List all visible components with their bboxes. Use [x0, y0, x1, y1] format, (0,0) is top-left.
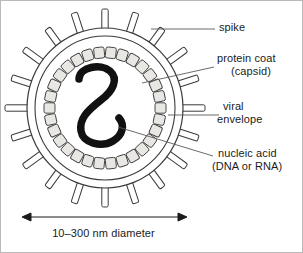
capsid-subunit	[153, 113, 166, 125]
scale-arrow	[22, 213, 187, 221]
capsid-subunit	[153, 90, 166, 102]
capsid-subunit	[44, 103, 55, 113]
label-viral-envelope: viral envelope	[223, 100, 262, 126]
capsid-subunit	[93, 157, 104, 169]
envelope-inner-edge	[35, 36, 175, 180]
label-capsid-text: (capsid)	[217, 65, 276, 78]
capsid-subunit	[105, 47, 116, 59]
scale-arrow-head-left	[22, 213, 31, 221]
label-spike: spike	[219, 21, 245, 34]
virus-diagram	[1, 1, 303, 253]
capsid-subunit	[44, 113, 57, 125]
figure-canvas: spike protein coat (capsid) viral envelo…	[0, 0, 303, 253]
label-nucleic-acid: nucleic acid (DNA or RNA)	[212, 147, 282, 173]
capsid-subunit	[105, 157, 116, 169]
label-protein-coat: protein coat (capsid)	[217, 52, 276, 78]
capsid-subunit	[155, 103, 166, 113]
label-dna-rna-text: (DNA or RNA)	[212, 160, 282, 173]
label-spike-text: spike	[219, 21, 245, 34]
capsid-subunit	[44, 90, 57, 102]
label-envelope-text: envelope	[217, 113, 262, 126]
label-nucleic-acid-text: nucleic acid	[218, 147, 282, 160]
capsid-subunit	[93, 47, 104, 59]
label-viral-text: viral	[223, 100, 262, 113]
label-scale: 10–300 nm diameter	[1, 227, 206, 240]
scale-arrow-head-right	[178, 213, 187, 221]
label-protein-coat-text: protein coat	[217, 52, 276, 65]
